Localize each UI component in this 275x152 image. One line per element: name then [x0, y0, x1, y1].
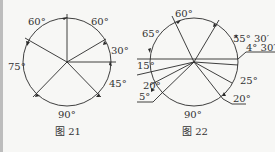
arrows-21 [26, 17, 112, 97]
angle-label: 90° [184, 109, 202, 120]
angle-label: 20° [233, 93, 251, 104]
radius-150 [25, 38, 67, 62]
angle-label: 75° [8, 61, 26, 72]
radius-n4 [194, 62, 238, 65]
diagram-canvas: 60° 60° 30° 75° 45° 90° 图 21 60° 65° 55°… [0, 0, 275, 152]
angle-label: 45° [109, 78, 127, 89]
angle-label: 30° [111, 45, 129, 56]
angle-label: 60° [28, 16, 46, 27]
angle-label: 65° [142, 28, 160, 39]
radius-225 [33, 62, 67, 97]
radius-45 [194, 62, 223, 99]
radius-25 [194, 62, 232, 83]
arrows-22 [148, 20, 238, 96]
figure-21 [23, 14, 116, 106]
radius-315 [67, 62, 101, 97]
angle-label: 5° [139, 91, 150, 102]
angle-label: 20° [143, 80, 161, 91]
angle-label: 60° [91, 16, 109, 27]
angle-label: 90° [58, 109, 76, 120]
leader-4-30 [238, 52, 275, 59]
angle-label: 25° [240, 75, 258, 86]
figure-caption: 图 21 [55, 126, 81, 137]
figure-caption: 图 22 [182, 126, 208, 137]
radius-115 [172, 16, 194, 62]
angle-label: 60° [175, 8, 193, 19]
angle-label: 15° [137, 60, 155, 71]
angle-label: 4° 30′ [246, 42, 275, 53]
radius-30 [67, 39, 106, 62]
line-5 [160, 62, 194, 95]
